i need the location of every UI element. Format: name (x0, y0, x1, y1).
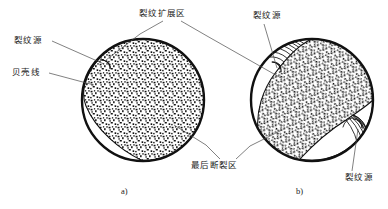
panel-b-final-fracture-region (249, 36, 377, 164)
panel-b-drawing (249, 36, 377, 164)
label-final-fracture-zone: 最后断裂区 (191, 161, 238, 170)
leader-crack-origin-left (52, 41, 104, 64)
caption-panel-b: b) (296, 186, 303, 196)
label-propagation-zone: 裂纹扩展区 (139, 9, 186, 18)
label-crack-origin-left: 裂纹源 (14, 36, 42, 45)
caption-panel-a: a) (121, 186, 128, 196)
panel-a-final-fracture-region (80, 36, 208, 164)
label-crack-origin-bottom-right: 裂纹源 (345, 173, 373, 182)
label-crack-origin-top-right: 裂纹源 (253, 11, 281, 20)
fatigue-fracture-diagram: 裂纹源 贝壳线 裂纹扩展区 裂纹源 最后断裂区 裂纹源 a) b) (0, 0, 388, 209)
label-shell-lines: 贝壳线 (12, 68, 40, 77)
diagram-canvas (0, 0, 388, 209)
panel-a-drawing (80, 36, 208, 164)
